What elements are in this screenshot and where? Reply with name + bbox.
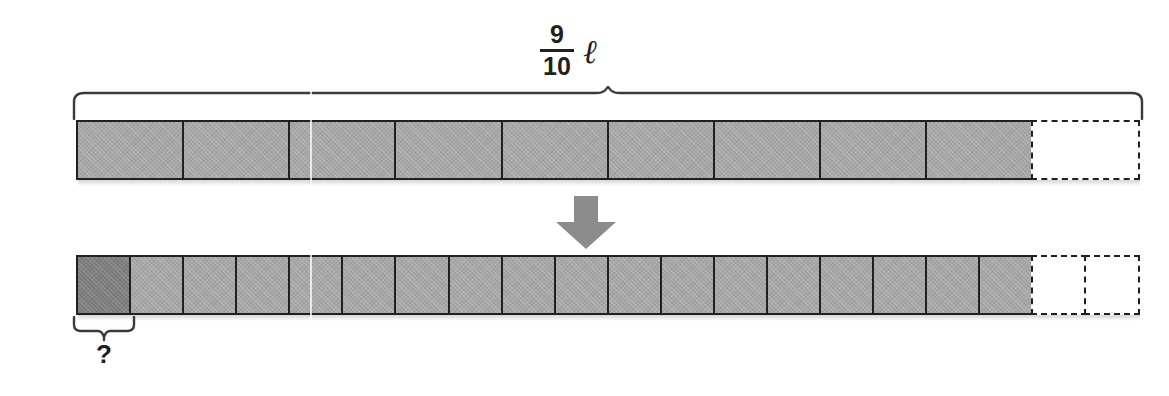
bottom-tape-cell (607, 255, 663, 315)
top-tape-cell (501, 120, 610, 180)
fraction-nine-tenths: 9 10 (540, 22, 574, 79)
bottom-tape-cell (554, 255, 610, 315)
bottom-tape-cell (341, 255, 397, 315)
top-tape-cell (288, 120, 397, 180)
top-tape-cell (394, 120, 503, 180)
top-tape-cell (607, 120, 716, 180)
bottom-tape-cell (925, 255, 981, 315)
bottom-tape-cell (660, 255, 716, 315)
top-tape-cell (925, 120, 1034, 180)
top-brace-icon (70, 86, 1146, 120)
top-tape-cell-empty (1031, 120, 1140, 180)
bottom-tape-cell (448, 255, 504, 315)
bottom-tape-cell (182, 255, 238, 315)
bottom-tape-cell-empty (1084, 255, 1140, 315)
top-tape-cell (76, 120, 185, 180)
bottom-tape-cell (713, 255, 769, 315)
top-tape-cell (182, 120, 291, 180)
scan-seam (310, 0, 312, 396)
bottom-tape-diagram (76, 255, 1140, 315)
bottom-tape-cell (288, 255, 344, 315)
fraction-label: 9 10 ℓ (540, 22, 597, 79)
bottom-tape-cell (978, 255, 1034, 315)
bottom-tape-cell (394, 255, 450, 315)
bottom-tape-cell (235, 255, 291, 315)
litre-unit-symbol: ℓ (583, 36, 597, 69)
top-tape-diagram (76, 120, 1140, 180)
question-mark-label: ? (72, 340, 136, 369)
figure-canvas: 9 10 ℓ (0, 0, 1169, 396)
fraction-numerator: 9 (547, 22, 567, 49)
top-tape-cell (819, 120, 928, 180)
bottom-tape-cell-empty (1031, 255, 1087, 315)
bottom-tape-cell-highlighted (76, 255, 132, 315)
bottom-tape-cell (819, 255, 875, 315)
bottom-tape-cell (129, 255, 185, 315)
bottom-tape-cell (872, 255, 928, 315)
fraction-denominator: 10 (540, 52, 574, 79)
bottom-tape-cell (501, 255, 557, 315)
top-tape-cell (713, 120, 822, 180)
bottom-tape-cell (766, 255, 822, 315)
down-arrow-icon (550, 196, 622, 250)
